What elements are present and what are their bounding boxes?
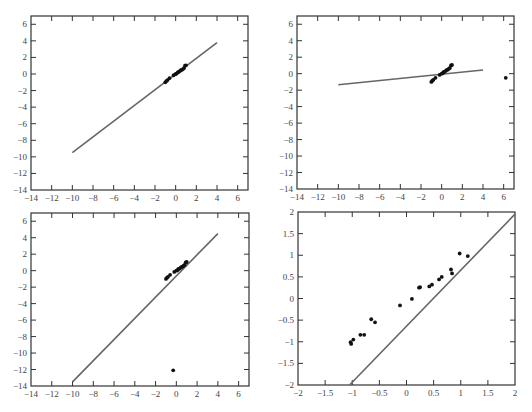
y-tick-label: −10 [13, 348, 28, 358]
data-point [351, 338, 355, 342]
data-point [449, 268, 453, 272]
qq-plot-grid: −14−12−10−8−6−4−20246−14−12−10−8−6−4−202… [0, 0, 532, 412]
y-tick-label: −14 [13, 185, 28, 195]
x-tick-label: 2 [513, 388, 518, 398]
y-tick-label: −4 [17, 102, 27, 112]
plot-frame [31, 213, 249, 386]
x-tick-label: 6 [236, 389, 241, 399]
y-tick-label: −1 [284, 337, 294, 347]
x-tick-label: −2 [151, 389, 161, 399]
y-tick-label: 6 [23, 216, 28, 226]
x-tick-label: −6 [375, 192, 385, 202]
data-point [440, 275, 444, 279]
y-tick-label: 6 [289, 19, 294, 29]
y-tick-label: −10 [13, 152, 28, 162]
reference-line [72, 43, 217, 153]
x-tick-label: 0 [174, 389, 179, 399]
x-tick-label: 1 [459, 388, 464, 398]
x-tick-label: 1.5 [482, 388, 494, 398]
plot-frame [297, 16, 514, 189]
y-tick-label: 2 [290, 207, 295, 217]
y-tick-label: −2 [17, 282, 27, 292]
y-tick-label: 2 [23, 52, 28, 62]
panel-top-left: −14−12−10−8−6−4−20246−14−12−10−8−6−4−202… [13, 16, 248, 203]
data-point [450, 272, 454, 276]
data-point [458, 252, 462, 256]
x-tick-label: 0 [439, 192, 444, 202]
data-point [184, 63, 188, 67]
x-tick-label: −2 [150, 193, 160, 203]
y-tick-label: −0.5 [278, 315, 295, 325]
y-tick-label: −8 [283, 135, 293, 145]
x-tick-label: −6 [109, 193, 119, 203]
x-tick-label: −1 [347, 388, 357, 398]
y-tick-label: −6 [17, 315, 27, 325]
y-tick-label: −6 [283, 118, 293, 128]
y-tick-label: 0.5 [283, 272, 295, 282]
y-tick-label: 0 [290, 294, 295, 304]
data-point [168, 273, 172, 277]
y-tick-label: −4 [283, 102, 293, 112]
y-tick-label: 0 [23, 69, 28, 79]
x-tick-label: 4 [215, 193, 220, 203]
data-point [171, 368, 175, 372]
data-point [418, 285, 422, 289]
reference-line [350, 214, 515, 385]
y-tick-label: 2 [23, 249, 28, 259]
panel-top-right: −14−12−10−8−6−4−20246−14−12−10−8−6−4−202… [279, 16, 514, 202]
data-point [168, 76, 172, 80]
data-point [369, 317, 373, 321]
x-tick-label: −4 [396, 192, 406, 202]
x-tick-label: −2 [293, 388, 303, 398]
x-tick-label: 6 [235, 193, 240, 203]
x-tick-label: −8 [354, 192, 364, 202]
data-point [349, 342, 353, 346]
reference-line [338, 70, 483, 85]
plot-frame [298, 212, 515, 385]
y-tick-label: −12 [13, 365, 27, 375]
x-tick-label: 2 [194, 193, 199, 203]
y-tick-label: −12 [13, 168, 27, 178]
y-tick-label: −4 [17, 299, 27, 309]
data-point [434, 76, 438, 80]
plot-frame [31, 16, 248, 190]
y-tick-label: 0 [23, 266, 28, 276]
data-point [504, 76, 508, 80]
y-tick-label: −8 [17, 332, 27, 342]
x-tick-label: 0.5 [428, 388, 440, 398]
data-point [410, 297, 414, 301]
y-tick-label: −1.5 [278, 358, 295, 368]
x-tick-label: −4 [130, 193, 140, 203]
y-tick-label: −12 [279, 168, 293, 178]
y-tick-label: −2 [17, 86, 27, 96]
x-tick-label: 0 [404, 388, 409, 398]
data-point [373, 320, 377, 324]
x-tick-label: −8 [88, 389, 98, 399]
y-tick-label: −14 [279, 184, 294, 194]
data-point [398, 304, 402, 308]
x-tick-label: 4 [216, 389, 221, 399]
data-point [430, 283, 434, 287]
x-tick-label: −12 [45, 389, 59, 399]
x-tick-label: −10 [65, 389, 80, 399]
x-tick-label: 2 [460, 192, 465, 202]
x-tick-label: −0.5 [371, 388, 388, 398]
reference-line [73, 234, 218, 382]
data-point [466, 254, 470, 258]
x-tick-label: −1.5 [317, 388, 334, 398]
x-tick-label: 6 [501, 192, 506, 202]
data-point [450, 63, 454, 67]
x-tick-label: −2 [416, 192, 426, 202]
y-tick-label: 6 [23, 19, 28, 29]
y-tick-label: 2 [289, 52, 294, 62]
x-tick-label: −6 [109, 389, 119, 399]
data-point [362, 333, 366, 337]
x-tick-label: 0 [173, 193, 178, 203]
data-point [185, 260, 189, 264]
x-tick-label: 2 [195, 389, 200, 399]
x-tick-label: −12 [311, 192, 325, 202]
x-tick-label: −8 [88, 193, 98, 203]
y-tick-label: −6 [17, 119, 27, 129]
y-tick-label: −2 [283, 85, 293, 95]
y-tick-label: 1.5 [283, 229, 295, 239]
